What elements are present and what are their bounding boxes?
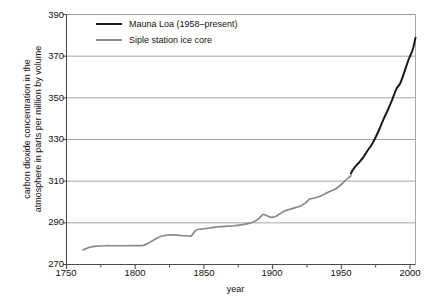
series-line-mauna-loa <box>351 38 416 174</box>
line-swatch-black-icon <box>96 23 122 25</box>
series-line-siple <box>83 176 351 250</box>
legend-entry-siple: Siple station ice core <box>96 32 238 48</box>
chart-legend: Mauna Loa (1958–present) Siple station i… <box>96 16 238 48</box>
chart-figure: carbon dioxide concentration in the atmo… <box>0 0 427 302</box>
axis-ticks-group <box>63 15 411 270</box>
data-series-group <box>83 38 416 250</box>
line-swatch-gray-icon <box>96 39 122 41</box>
legend-entry-mauna-loa: Mauna Loa (1958–present) <box>96 16 238 32</box>
legend-label-siple: Siple station ice core <box>129 35 212 45</box>
legend-label-mauna-loa: Mauna Loa (1958–present) <box>129 19 238 29</box>
